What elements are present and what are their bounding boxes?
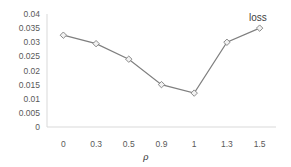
x-axis: 00.30.50.911.31.5 [47,127,276,149]
x-tick-label: 1.5 [254,139,266,149]
y-tick-label: 0.02 [23,66,40,76]
line-chart: 00.0050.010.0150.020.0250.030.0350.04 00… [0,0,291,167]
y-tick-label: 0.04 [23,9,40,19]
y-tick-label: 0 [35,122,40,132]
data-point-marker [93,40,99,46]
y-tick-label: 0.035 [19,23,41,33]
y-tick-label: 0.005 [19,108,41,118]
y-tick-label: 0.025 [19,51,41,61]
data-point-marker [256,25,262,31]
y-tick-label: 0.01 [23,94,40,104]
legend-loss: loss [249,12,267,23]
x-tick-label: 0.9 [156,139,168,149]
y-tick-label: 0.03 [23,37,40,47]
x-tick-label: 0 [61,139,66,149]
data-point-marker [224,39,230,45]
data-point-marker [191,90,197,96]
x-tick-label: 1 [192,139,197,149]
x-axis-title: ρ [142,150,148,162]
data-point-marker [60,32,66,38]
x-tick-label: 0.5 [123,139,135,149]
y-axis: 00.0050.010.0150.020.0250.030.0350.04 [19,9,47,132]
series-loss [60,25,263,96]
y-tick-label: 0.015 [19,80,41,90]
x-tick-label: 1.3 [221,139,233,149]
x-tick-label: 0.3 [90,139,102,149]
